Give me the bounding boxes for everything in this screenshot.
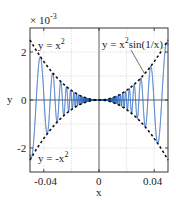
annotation-y-equals-x-squared: y = x2 [37, 38, 66, 51]
annotation-y-equals-neg-x-squared: y = -x2 [37, 151, 69, 164]
y-multiplier-base: × 10 [30, 14, 50, 26]
annotation-text-suffix: sin(1/x) [129, 38, 163, 50]
annotation-text: y = x [102, 38, 125, 50]
x-tick-004: 0.04 [143, 176, 162, 187]
annotation-exponent: 2 [64, 150, 68, 159]
x-tick-neg004: -0.04 [34, 176, 57, 187]
y-tick-0: 0 [21, 95, 27, 106]
y-axis-label: y [7, 94, 13, 105]
annotation-exponent: 2 [61, 37, 65, 46]
y-tick-neg2: -2 [17, 143, 26, 154]
annotation-y-equals-x-squared-sin: y = x2sin(1/x) [101, 37, 164, 50]
annotation-pointer-line [131, 50, 145, 74]
x-axis-label: x [96, 187, 102, 198]
y-tick-2: 2 [21, 47, 27, 58]
annotation-text: y = x [38, 39, 61, 51]
y-multiplier-exponent: -3 [50, 12, 57, 21]
annotation-text: y = -x [38, 152, 64, 164]
y-multiplier: × 10-3 [30, 13, 57, 26]
